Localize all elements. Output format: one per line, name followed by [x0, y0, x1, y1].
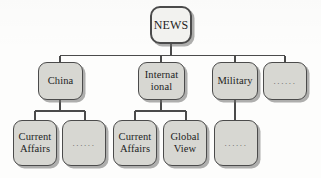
- node-label: ......: [63, 137, 105, 149]
- node-label: Global View: [164, 131, 206, 155]
- node-china-more[interactable]: ......: [62, 120, 106, 166]
- node-international-current-affairs[interactable]: Current Affairs: [113, 120, 157, 166]
- node-international-global-view[interactable]: Global View: [163, 120, 207, 166]
- node-international[interactable]: Internat ional: [138, 62, 185, 100]
- node-military-more[interactable]: ......: [214, 120, 258, 166]
- node-label: NEWS: [152, 19, 190, 31]
- node-label: Military: [213, 75, 257, 87]
- node-label: Current Affairs: [14, 131, 56, 155]
- node-label: ......: [215, 137, 257, 149]
- node-label: Current Affairs: [114, 131, 156, 155]
- tree-diagram-canvas: NEWS China Internat ional Military .....…: [0, 0, 321, 178]
- node-label: Internat ional: [139, 69, 184, 93]
- node-more-level1[interactable]: ......: [263, 62, 307, 100]
- node-china-current-affairs[interactable]: Current Affairs: [13, 120, 57, 166]
- node-label: ......: [264, 75, 306, 87]
- node-news-root[interactable]: NEWS: [150, 6, 192, 44]
- node-china[interactable]: China: [38, 62, 83, 100]
- node-military[interactable]: Military: [212, 62, 258, 100]
- node-label: China: [39, 75, 82, 87]
